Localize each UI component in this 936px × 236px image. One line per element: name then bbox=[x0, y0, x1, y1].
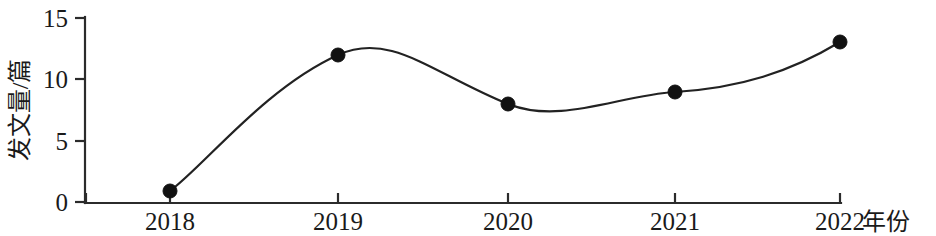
data-point-2020 bbox=[501, 97, 515, 111]
chart-figure: 15 10 5 0 2018 2019 2020 2021 2022 年份 发文… bbox=[0, 0, 936, 236]
y-tick-label-0: 0 bbox=[56, 189, 69, 216]
x-tick-label-2021: 2021 bbox=[650, 208, 700, 235]
y-tick-label-15: 15 bbox=[43, 5, 68, 32]
data-point-2022 bbox=[833, 35, 847, 49]
x-tick-label-2018: 2018 bbox=[145, 208, 195, 235]
data-point-2021 bbox=[668, 85, 682, 99]
y-tick-label-10: 10 bbox=[43, 66, 68, 93]
x-axis-title: 年份 bbox=[862, 209, 910, 235]
x-tick-label-2020: 2020 bbox=[483, 208, 533, 235]
line-chart: 15 10 5 0 2018 2019 2020 2021 2022 年份 发文… bbox=[0, 0, 936, 236]
y-tick-label-5: 5 bbox=[56, 128, 69, 155]
data-point-2019 bbox=[331, 48, 345, 62]
data-point-2018 bbox=[163, 184, 177, 198]
chart-background bbox=[0, 0, 936, 236]
y-axis-title: 发文量/篇 bbox=[7, 59, 33, 162]
x-tick-label-2022: 2022 bbox=[815, 208, 865, 235]
x-tick-label-2019: 2019 bbox=[313, 208, 363, 235]
